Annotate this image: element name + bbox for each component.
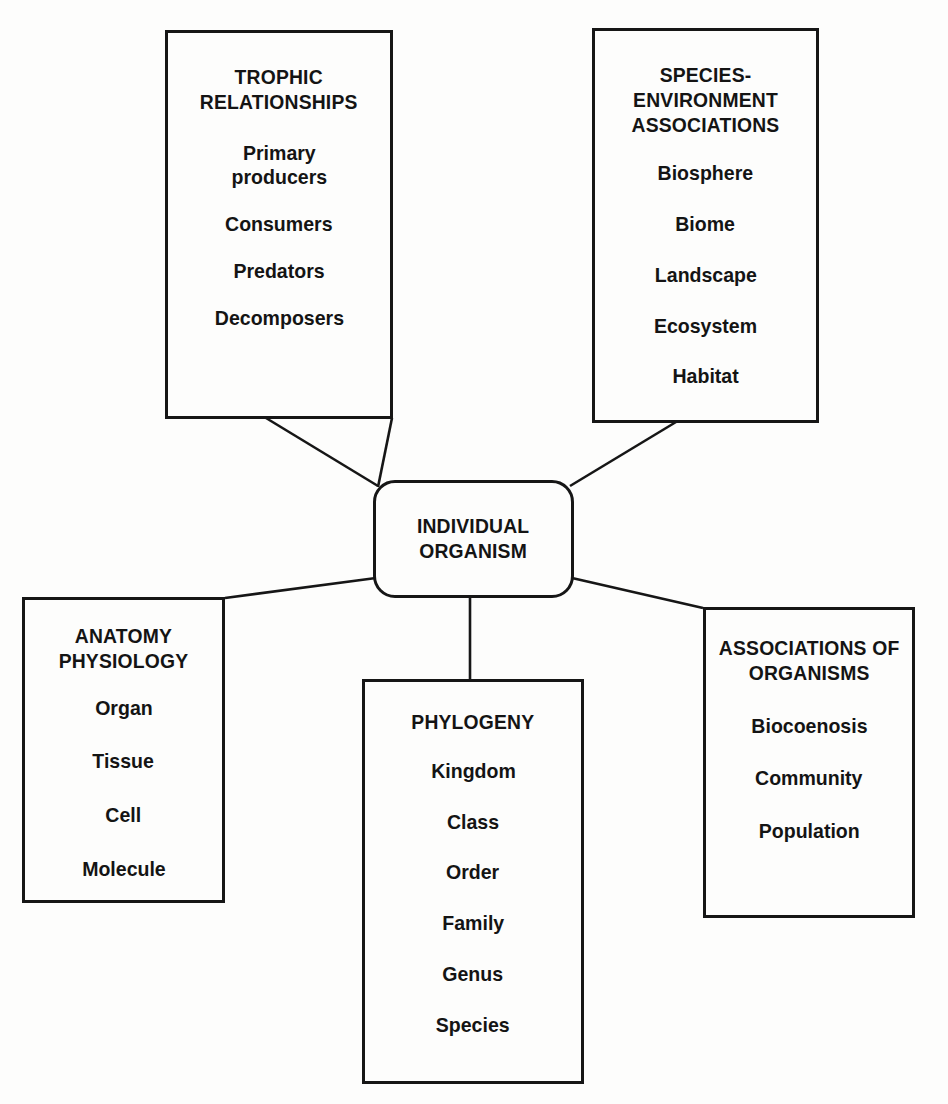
title-line: ASSOCIATIONS OF	[719, 636, 900, 661]
title-line: ANATOMY	[59, 624, 189, 649]
list-item: Biosphere	[658, 161, 754, 186]
node-phylogeny[interactable]: PHYLOGENY Kingdom Class Order Family Gen…	[362, 679, 584, 1084]
list-item: Tissue	[93, 749, 155, 774]
node-species-title: SPECIES-ENVIRONMENT ASSOCIATIONS	[604, 63, 807, 137]
node-anatomy-items: Organ Tissue Cell Molecule	[79, 696, 169, 882]
title-line: INDIVIDUAL	[417, 514, 529, 539]
title-line: ORGANISM	[417, 539, 529, 564]
connector-trophic-diagonal	[266, 418, 378, 486]
node-trophic-relationships[interactable]: TROPHIC RELATIONSHIPS Primary producers …	[165, 30, 393, 419]
node-anatomy-physiology[interactable]: ANATOMY PHYSIOLOGY Organ Tissue Cell Mol…	[22, 597, 225, 903]
diagram-canvas: TROPHIC RELATIONSHIPS Primary producers …	[0, 0, 948, 1104]
list-item: Class	[447, 810, 499, 835]
connector-center-to-trophic	[378, 418, 392, 487]
node-associations-of-organisms[interactable]: ASSOCIATIONS OF ORGANISMS Biocoenosis Co…	[703, 607, 915, 918]
title-line: SPECIES-ENVIRONMENT	[604, 63, 807, 113]
node-species-items: Biosphere Biome Landscape Ecosystem Habi…	[650, 161, 761, 389]
list-item: Decomposers	[214, 306, 343, 331]
list-item: Genus	[443, 962, 504, 987]
node-trophic-items: Primary producers Consumers Predators De…	[210, 141, 349, 331]
title-line: TROPHIC	[200, 65, 358, 90]
list-item: Consumers	[225, 212, 332, 237]
connector-species-diagonal	[570, 422, 676, 486]
list-item: Ecosystem	[654, 314, 757, 339]
node-trophic-title: TROPHIC RELATIONSHIPS	[200, 65, 358, 115]
list-item: Biocoenosis	[751, 714, 867, 739]
node-associations-items: Biocoenosis Community Population	[747, 714, 872, 844]
title-line: PHYSIOLOGY	[59, 649, 189, 674]
list-item: Organ	[95, 696, 153, 721]
connector-anatomy-diagonal	[225, 578, 376, 598]
list-item: Kingdom	[431, 759, 516, 784]
list-item: Biome	[676, 212, 736, 237]
title-line: PHYLOGENY	[412, 710, 535, 735]
list-item: Molecule	[82, 857, 166, 882]
node-individual-organism[interactable]: INDIVIDUAL ORGANISM	[373, 480, 574, 598]
node-phylogeny-items: Kingdom Class Order Family Genus Species	[428, 759, 519, 1038]
node-phylogeny-title: PHYLOGENY	[412, 710, 535, 735]
connector-associations-diagonal	[572, 578, 703, 608]
list-item: Cell	[106, 803, 142, 828]
list-item: Community	[755, 766, 862, 791]
title-line: ORGANISMS	[719, 661, 900, 686]
node-species-environment-associations[interactable]: SPECIES-ENVIRONMENT ASSOCIATIONS Biosphe…	[592, 28, 819, 423]
list-item: Habitat	[672, 364, 738, 389]
node-anatomy-title: ANATOMY PHYSIOLOGY	[59, 624, 189, 674]
list-item: Population	[759, 819, 860, 844]
list-item: Landscape	[654, 263, 756, 288]
list-item: Primary producers	[231, 141, 327, 191]
title-line: ASSOCIATIONS	[604, 113, 807, 138]
node-associations-title: ASSOCIATIONS OF ORGANISMS	[719, 636, 900, 686]
list-item: Family	[442, 911, 504, 936]
node-center-title: INDIVIDUAL ORGANISM	[417, 514, 529, 564]
list-item: Order	[446, 860, 499, 885]
title-line: RELATIONSHIPS	[200, 90, 358, 115]
list-item: Predators	[233, 259, 324, 284]
list-item: Species	[436, 1013, 510, 1038]
